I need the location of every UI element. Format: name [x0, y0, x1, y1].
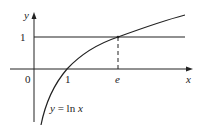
- intersection-point: [117, 36, 120, 39]
- x-axis-label: x: [185, 73, 191, 85]
- y-axis-arrow-icon: [32, 12, 37, 19]
- x-axis-arrow-icon: [186, 67, 193, 72]
- x-tick-e-label: e: [115, 73, 120, 85]
- curve-label: y = ln x: [49, 102, 83, 114]
- origin-label: 0: [25, 73, 31, 85]
- x-tick-1-label: 1: [65, 73, 71, 85]
- y-tick-1-label: 1: [20, 31, 26, 43]
- curve-label-eq: = ln: [55, 102, 78, 114]
- y-axis-label: y: [23, 9, 29, 21]
- curve-label-var: x: [77, 102, 83, 114]
- ln-graph: y 1 0 1 e x y = ln x: [0, 0, 201, 133]
